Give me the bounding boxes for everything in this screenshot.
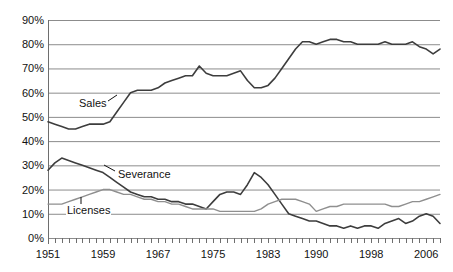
x-tick-label: 1983	[256, 249, 280, 260]
x-tick-label: 1951	[36, 249, 60, 260]
x-tick-label: 2006	[414, 249, 438, 260]
x-tick-label: 1967	[146, 249, 170, 260]
x-axis-tick-labels: 19511959196719751983199019982006	[0, 0, 453, 272]
series-label-sales: Sales	[78, 98, 108, 109]
x-tick-label: 1990	[304, 249, 328, 260]
line-chart: 0%10%20%30%40%50%60%70%80%90% 1951195919…	[0, 0, 453, 272]
series-label-severance: Severance	[117, 169, 172, 180]
x-tick-label: 1998	[359, 249, 383, 260]
x-tick-label: 1975	[201, 249, 225, 260]
x-tick-label: 1959	[91, 249, 115, 260]
series-label-licenses: Licenses	[66, 205, 111, 216]
